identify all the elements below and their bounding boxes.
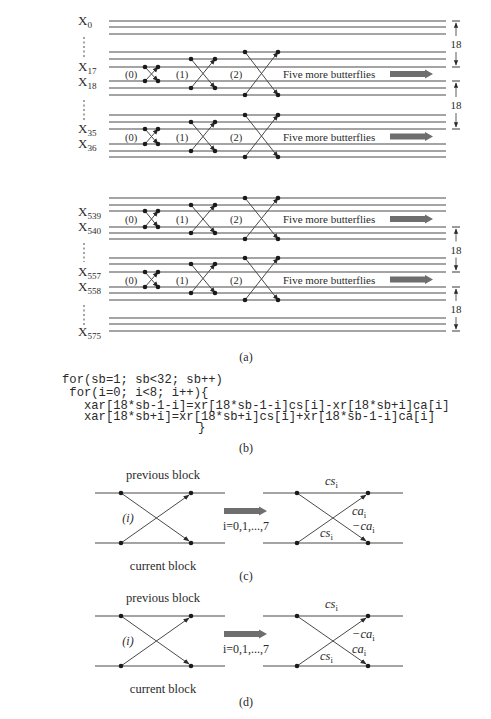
- node-dot: [366, 491, 371, 496]
- node-dot: [276, 50, 281, 55]
- butterfly-0-label: (0): [125, 69, 138, 81]
- node-dot: [156, 270, 161, 275]
- node-dot: [189, 203, 194, 208]
- node-dot: [243, 113, 248, 118]
- node-dot: [189, 491, 194, 496]
- node-dot: [119, 541, 124, 546]
- node-dot: [189, 664, 194, 669]
- node-dot: [189, 541, 194, 546]
- five-more-butterflies-text: Five more butterflies: [283, 68, 375, 80]
- transform-arrow: [224, 507, 267, 516]
- butterfly-1-label: (1): [176, 132, 189, 144]
- current-block-label: current block: [130, 559, 197, 573]
- range-label: i=0,1,...,7: [223, 642, 269, 656]
- node-dot: [276, 298, 281, 303]
- node-dot: [276, 196, 281, 201]
- node-dot: [243, 298, 248, 303]
- node-dot: [213, 120, 218, 125]
- row-label-x575: X575: [78, 324, 101, 341]
- row-label-x540: X540: [78, 219, 101, 236]
- ca-lower-coefficient: −cai: [352, 519, 375, 535]
- ca-upper-coefficient: −cai: [352, 627, 375, 643]
- more-butterflies-arrow: [390, 132, 433, 141]
- node-dot: [189, 86, 194, 91]
- node-dot: [143, 127, 148, 132]
- node-dot: [276, 155, 281, 160]
- more-butterflies-arrow: [390, 215, 433, 224]
- transform-arrow: [224, 630, 267, 639]
- node-dot: [156, 127, 161, 132]
- node-dot: [119, 614, 124, 619]
- butterfly-1-label: (1): [176, 69, 189, 81]
- index-label-i: (i): [122, 634, 133, 648]
- node-dot: [213, 86, 218, 91]
- butterfly-0-label: (0): [125, 275, 138, 287]
- butterfly-2-label: (2): [230, 132, 243, 144]
- node-dot: [189, 291, 194, 296]
- span-label-18: 18: [451, 38, 463, 50]
- caption-d: (d): [239, 695, 253, 709]
- node-dot: [156, 79, 161, 84]
- range-label: i=0,1,...,7: [223, 519, 269, 533]
- node-dot: [156, 142, 161, 147]
- node-dot: [295, 614, 300, 619]
- node-dot: [243, 50, 248, 55]
- node-dot: [119, 491, 124, 496]
- node-dot: [156, 209, 161, 214]
- row-label-x18: X18: [78, 74, 97, 91]
- span-label-18: 18: [451, 303, 463, 315]
- node-dot: [243, 155, 248, 160]
- node-dot: [143, 285, 148, 290]
- node-dot: [213, 203, 218, 208]
- node-dot: [243, 93, 248, 98]
- node-dot: [276, 93, 281, 98]
- node-dot: [143, 65, 148, 70]
- previous-block-label: previous block: [126, 468, 201, 482]
- node-dot: [276, 256, 281, 261]
- cs-top-coefficient: csi: [325, 597, 338, 613]
- butterfly-1-label: (1): [176, 214, 189, 226]
- butterfly-2-label: (2): [230, 214, 243, 226]
- five-more-butterflies-text: Five more butterflies: [283, 274, 375, 286]
- node-dot: [143, 209, 148, 214]
- caption-b: (b): [239, 441, 253, 455]
- caption-c: (c): [239, 569, 252, 583]
- node-dot: [366, 614, 371, 619]
- more-butterflies-arrow: [390, 70, 433, 79]
- code-line-4: xar[18*sb+i]=xr[18*sb+i]cs[i]+xr[18*sb-1…: [62, 411, 435, 423]
- cs-bottom-coefficient: csi: [320, 526, 333, 542]
- node-dot: [243, 196, 248, 201]
- cs-top-coefficient: csi: [325, 474, 338, 490]
- node-dot: [143, 225, 148, 230]
- node-dot: [156, 225, 161, 230]
- previous-block-label: previous block: [126, 591, 201, 605]
- node-dot: [213, 291, 218, 296]
- code-line-1: for(sb=1; sb<32; sb++): [62, 374, 223, 386]
- node-dot: [276, 113, 281, 118]
- five-more-butterflies-text: Five more butterflies: [283, 213, 375, 225]
- index-label-i: (i): [122, 511, 133, 525]
- node-dot: [366, 664, 371, 669]
- node-dot: [213, 57, 218, 62]
- butterfly-0-label: (0): [125, 214, 138, 226]
- row-label-x36: X36: [78, 136, 97, 153]
- five-more-butterflies-text: Five more butterflies: [283, 131, 375, 143]
- node-dot: [295, 491, 300, 496]
- ca-upper-coefficient: cai: [352, 504, 367, 520]
- node-dot: [213, 231, 218, 236]
- node-dot: [213, 262, 218, 267]
- butterfly-2-label: (2): [230, 275, 243, 287]
- node-dot: [156, 65, 161, 70]
- more-butterflies-arrow: [390, 275, 433, 284]
- span-label-18: 18: [451, 244, 463, 256]
- node-dot: [189, 231, 194, 236]
- node-dot: [143, 142, 148, 147]
- node-dot: [143, 79, 148, 84]
- node-dot: [295, 541, 300, 546]
- row-label-x0: X0: [78, 13, 92, 30]
- node-dot: [295, 664, 300, 669]
- node-dot: [366, 541, 371, 546]
- caption-a: (a): [239, 350, 252, 364]
- node-dot: [276, 237, 281, 242]
- node-dot: [189, 57, 194, 62]
